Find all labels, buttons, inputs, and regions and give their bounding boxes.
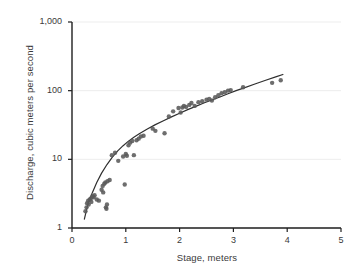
- fitted-curve: [84, 74, 283, 219]
- y-tick-label: 1: [22, 222, 62, 232]
- y-tick-label: 1,000: [22, 16, 62, 26]
- axis-lines-group: [72, 22, 341, 228]
- gridline-group: [72, 22, 341, 228]
- scatter-points-group: [83, 78, 283, 214]
- y-axis-label: Discharge, cubic meters per second: [24, 33, 35, 213]
- x-tick-label: 2: [170, 235, 190, 245]
- x-tick-label: 5: [331, 235, 351, 245]
- x-axis-label: Stage, meters: [72, 252, 342, 263]
- discharge-rating-curve-figure: 1101001,000012345 Discharge, cubic meter…: [0, 0, 361, 271]
- x-tick-label: 4: [277, 235, 297, 245]
- x-tick-label: 1: [116, 235, 136, 245]
- x-tick-label: 0: [62, 235, 82, 245]
- x-tick-label: 3: [223, 235, 243, 245]
- tick-marks-group: [68, 22, 341, 232]
